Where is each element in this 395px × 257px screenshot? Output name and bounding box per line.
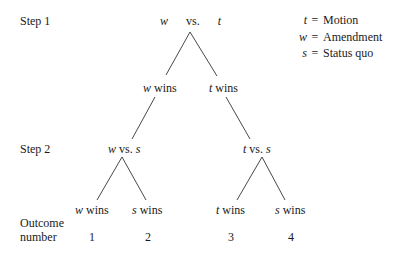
node-t-wins: t wins bbox=[209, 81, 238, 95]
root-node: w vs. t bbox=[160, 14, 221, 28]
outcome-number-4: 4 bbox=[288, 230, 294, 244]
leaf-s-wins-2: s wins bbox=[275, 203, 305, 217]
edge-w-vs-s-to-s-wins bbox=[122, 157, 146, 200]
step-2-label: Step 2 bbox=[20, 142, 50, 156]
leaf-t-wins: t wins bbox=[216, 203, 245, 217]
root-left-var: w bbox=[160, 14, 168, 28]
outcome-number-3: 3 bbox=[228, 230, 234, 244]
edge-root-to-w-wins bbox=[166, 32, 190, 75]
root-right-var: t bbox=[218, 14, 221, 28]
node-t-vs-s: t vs. s bbox=[243, 142, 271, 156]
outcome-label-line1: Outcome bbox=[20, 216, 64, 230]
node-w-vs-s: w vs. s bbox=[108, 142, 140, 156]
edge-root-to-t-wins bbox=[190, 32, 217, 76]
edge-t-vs-s-to-t-wins bbox=[237, 157, 262, 200]
node-w-wins: w wins bbox=[143, 81, 177, 95]
legend-row-s: s=Status quo bbox=[293, 46, 373, 60]
outcome-label-line2: number bbox=[20, 230, 57, 244]
edge-t-wins-to-t-vs-s bbox=[226, 97, 250, 139]
outcome-number-2: 2 bbox=[145, 230, 151, 244]
edge-w-vs-s-to-w-wins bbox=[97, 157, 122, 200]
edge-t-vs-s-to-s-wins bbox=[262, 157, 285, 200]
root-vs: vs. bbox=[186, 14, 200, 28]
legend-row-w: w=Amendment bbox=[293, 30, 382, 44]
leaf-w-wins: w wins bbox=[75, 203, 109, 217]
legend-row-t: t=Motion bbox=[293, 13, 358, 27]
edge-w-wins-to-w-vs-s bbox=[132, 97, 155, 139]
outcome-number-1: 1 bbox=[89, 230, 95, 244]
leaf-s-wins-1: s wins bbox=[132, 203, 162, 217]
step-1-label: Step 1 bbox=[20, 14, 50, 28]
